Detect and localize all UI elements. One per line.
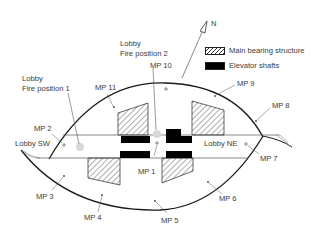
mp-label: MP 7 — [260, 155, 278, 163]
legend-swatch-solid — [205, 62, 225, 70]
mp-label: MP 5 — [161, 217, 179, 225]
mp-label: MP 10 — [150, 62, 172, 70]
lobby-sw-label: Lobby SW — [15, 140, 50, 148]
legend-label-elevator: Elevator shafts — [229, 62, 279, 70]
north-label: N — [211, 20, 216, 28]
mp-label: MP 3 — [36, 193, 54, 201]
measurement-points — [52, 85, 270, 213]
mp-label: MP 8 — [272, 102, 290, 110]
building-floor-plan — [0, 0, 317, 238]
lobby-fire1-line2: Fire position 1 — [22, 85, 70, 93]
lobby-fire2-line1: Lobby — [120, 40, 141, 48]
legend-label-bearing: Main bearing structure — [229, 47, 305, 55]
legend-swatch-hatched — [205, 47, 225, 55]
north-arrow-icon — [182, 21, 207, 78]
mp-label: MP 6 — [219, 195, 237, 203]
mp-label: MP 4 — [84, 214, 102, 222]
fire-position-2-marker — [153, 130, 161, 138]
lobby-fire1-line1: Lobby — [22, 75, 43, 83]
mp-label: MP 11 — [95, 84, 116, 92]
fire-position-1-marker — [76, 143, 84, 151]
lobby-fire2-line2: Fire position 2 — [120, 50, 168, 58]
mp-label: MP 9 — [237, 80, 255, 88]
mp-label: MP 1 — [138, 168, 156, 176]
ne-lobby-arc — [263, 136, 292, 147]
lobby-ne-label: Lobby NE — [204, 140, 237, 148]
mp-label: MP 2 — [34, 125, 52, 133]
